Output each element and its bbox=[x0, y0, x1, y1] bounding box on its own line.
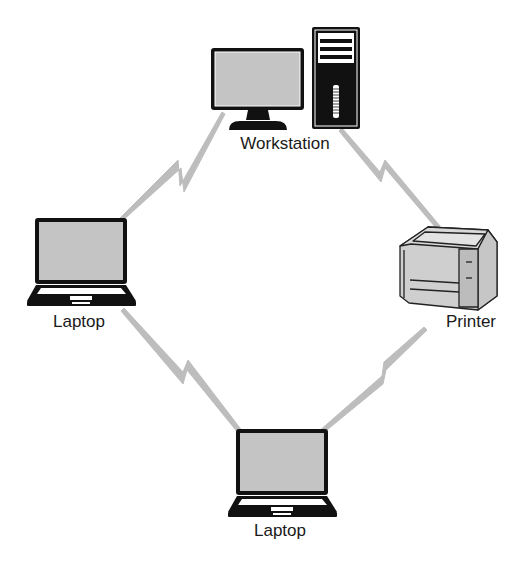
monitor-icon bbox=[211, 48, 304, 130]
diagram-canvas bbox=[0, 0, 528, 568]
link-printer-to-laptop-bottom bbox=[318, 327, 427, 434]
link-laptop-left-to-workstation bbox=[118, 112, 225, 222]
printer-label: Printer bbox=[446, 312, 496, 332]
tower-icon bbox=[312, 27, 360, 129]
laptop-icon-bottom bbox=[228, 429, 337, 517]
laptop-bottom-label: Laptop bbox=[254, 521, 306, 541]
network-diagram: Workstation Printer Laptop Laptop bbox=[0, 0, 528, 568]
printer-icon bbox=[400, 227, 497, 310]
workstation-label: Workstation bbox=[240, 134, 329, 154]
link-workstation-to-printer bbox=[339, 128, 440, 228]
link-laptop-left-to-laptop-bottom bbox=[121, 308, 243, 434]
laptop-icon-left bbox=[27, 218, 136, 306]
desktop-computer-icon bbox=[211, 27, 360, 130]
laptop-left-label: Laptop bbox=[53, 312, 105, 332]
